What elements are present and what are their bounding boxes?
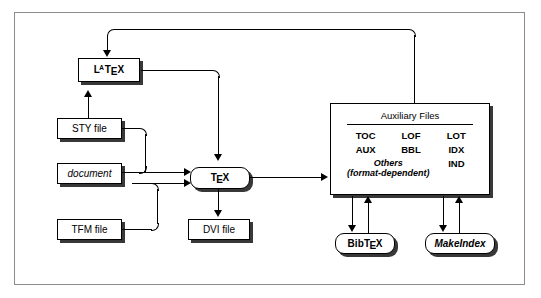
arrowhead-into-aux-from-makeindex	[455, 196, 463, 203]
node-dvi-file-label: DVI file	[203, 225, 235, 235]
node-makeindex[interactable]: MakeIndex	[425, 233, 495, 254]
node-sty-file-label: STY file	[72, 124, 107, 134]
edge-sty-to-latex-v	[88, 97, 89, 118]
node-tfm-file[interactable]: TFM file	[57, 219, 122, 240]
node-document-label: document	[68, 169, 112, 179]
edge-tfm-to-tex-h1	[122, 229, 152, 230]
edge-document-to-tex	[122, 172, 186, 173]
arrowhead-into-dvi	[214, 210, 222, 217]
aux-ext-lof: LOF	[388, 130, 433, 141]
arrowhead-into-aux-from-bibtex	[364, 196, 372, 203]
arrowhead-into-latex-bottom	[84, 90, 92, 97]
edge-aux-to-latex-drop	[107, 35, 108, 51]
node-sty-file[interactable]: STY file	[57, 118, 122, 139]
edge-latex-to-tex-h	[141, 70, 213, 71]
aux-ext-lot: LOT	[434, 130, 479, 141]
node-dvi-file[interactable]: DVI file	[188, 219, 250, 240]
node-bibtex-label: BibTEX	[347, 239, 382, 249]
aux-ext-aux: AUX	[343, 144, 388, 155]
edge-makeindex-to-aux-up	[459, 203, 460, 233]
edge-tfm-to-tex-v	[157, 189, 158, 224]
edge-aux-to-latex-top	[114, 29, 409, 30]
edge-tex-to-dvi	[218, 189, 219, 211]
arrowhead-into-latex-top	[103, 50, 111, 57]
edge-aux-to-bibtex-down	[352, 196, 353, 226]
edge-tfm-to-tex-h3	[132, 183, 186, 184]
arrowhead-into-bibtex	[348, 225, 356, 232]
panel-auxiliary-files[interactable]: Auxiliary Files TOC LOF LOT AUX BBL IDX …	[330, 103, 490, 195]
node-latex-label: LATEX	[94, 65, 124, 75]
node-document[interactable]: document	[57, 163, 122, 184]
auxiliary-files-title: Auxiliary Files	[347, 110, 473, 125]
edge-sty-to-tex-h1	[122, 128, 140, 129]
edge-aux-to-makeindex-down	[443, 196, 444, 226]
edge-latex-to-tex-v	[218, 76, 219, 154]
aux-ext-toc: TOC	[343, 130, 388, 141]
aux-others-line1: Others	[343, 158, 434, 168]
arrowhead-into-tex-top	[214, 154, 222, 161]
arrowhead-into-aux	[321, 173, 328, 181]
aux-ext-bbl: BBL	[388, 144, 433, 155]
aux-others-line2: (format-dependent)	[343, 168, 434, 178]
diagram-canvas: LATEX STY file document TFM file TEX DVI…	[0, 0, 541, 298]
node-latex[interactable]: LATEX	[78, 58, 140, 82]
auxiliary-files-grid: TOC LOF LOT AUX BBL IDX Others (format-d…	[343, 130, 479, 179]
edge-tex-to-aux	[250, 177, 322, 178]
node-bibtex[interactable]: BibTEX	[335, 233, 395, 254]
edge-aux-to-latex-riser	[414, 35, 415, 103]
node-tex[interactable]: TEX	[190, 167, 250, 189]
aux-others-note: Others (format-dependent)	[343, 158, 434, 179]
aux-ext-ind: IND	[434, 158, 479, 169]
edge-bibtex-to-aux-up	[368, 203, 369, 233]
node-tfm-file-label: TFM file	[71, 225, 107, 235]
node-makeindex-label: MakeIndex	[434, 239, 485, 249]
arrowhead-into-makeindex	[439, 225, 447, 232]
aux-ext-idx: IDX	[434, 144, 479, 155]
node-tex-label: TEX	[211, 173, 230, 183]
